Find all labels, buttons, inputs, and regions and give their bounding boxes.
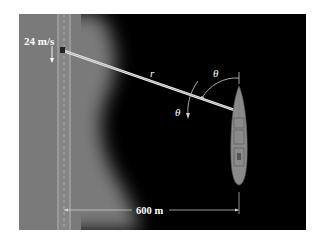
angle-label-side: θ [175, 106, 181, 118]
angle-label-top: θ [213, 67, 219, 79]
searchlight-icon [60, 47, 65, 53]
diagram-canvas: 24 m/s r θ θ 600 m [0, 0, 320, 247]
speed-label: 24 m/s [24, 35, 55, 47]
beam-length-label: r [150, 67, 155, 79]
distance-label: 600 m [136, 205, 163, 216]
scene: 24 m/s r θ θ 600 m [19, 14, 306, 230]
road [57, 14, 71, 230]
